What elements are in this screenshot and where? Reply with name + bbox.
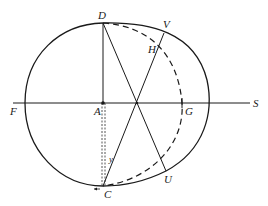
arrow-head-icon (94, 188, 97, 191)
label-F: F (9, 105, 17, 117)
label-C: C (104, 188, 112, 200)
dashed-inner-curve (103, 23, 182, 186)
label-S: S (253, 97, 259, 109)
point-center (136, 102, 138, 104)
label-D: D (97, 9, 106, 21)
diagram-canvas: D V H F A G S y C U (0, 0, 268, 206)
label-G: G (185, 105, 193, 117)
label-y: y (108, 154, 113, 164)
line-DU (103, 23, 166, 171)
label-H: H (147, 43, 157, 55)
point-A (101, 101, 105, 105)
label-V: V (163, 18, 171, 30)
label-U: U (164, 173, 173, 185)
label-A: A (93, 105, 101, 117)
